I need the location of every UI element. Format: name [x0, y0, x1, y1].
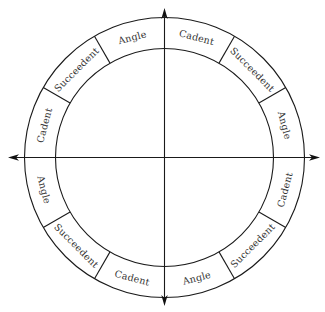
- house-label-succeedent: Succeedent: [228, 221, 277, 270]
- house-label-cadent: Cadent: [275, 171, 295, 208]
- house-label-cadent: Cadent: [34, 107, 54, 144]
- house-wheel-diagram: AngleSucceedentCadentAngleSucceedentCade…: [0, 0, 325, 312]
- house-label-cadent: Cadent: [114, 268, 151, 288]
- house-label-angle: Angle: [35, 173, 53, 205]
- wheel-canvas: AngleSucceedentCadentAngleSucceedentCade…: [0, 0, 325, 312]
- house-label-angle: Angle: [116, 28, 148, 46]
- house-label-angle: Angle: [180, 269, 212, 287]
- axes: [8, 8, 320, 306]
- house-label-cadent: Cadent: [178, 27, 215, 47]
- house-label-succeedent: Succeedent: [52, 221, 101, 270]
- house-label-succeedent: Succeedent: [52, 45, 101, 94]
- house-label-succeedent: Succeedent: [228, 45, 277, 94]
- house-label-angle: Angle: [275, 109, 293, 141]
